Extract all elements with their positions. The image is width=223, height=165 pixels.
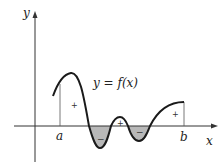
- area-under-curve-diagram: y x a b y = f(x) + − + − +: [0, 0, 223, 165]
- region-sign-5: +: [172, 110, 179, 119]
- region-sign-1: +: [71, 101, 78, 110]
- region-sign-4: −: [136, 127, 144, 137]
- y-axis-arrow-icon: [33, 11, 38, 18]
- y-axis-label: y: [22, 6, 30, 20]
- x-axis-label: x: [206, 134, 213, 148]
- region-sign-3: +: [117, 119, 124, 128]
- right-bound-label: b: [180, 130, 188, 144]
- left-bound-label: a: [56, 129, 63, 143]
- curve-label: y = f(x): [92, 76, 138, 90]
- region-sign-2: −: [97, 134, 105, 144]
- x-axis-arrow-icon: [211, 124, 218, 129]
